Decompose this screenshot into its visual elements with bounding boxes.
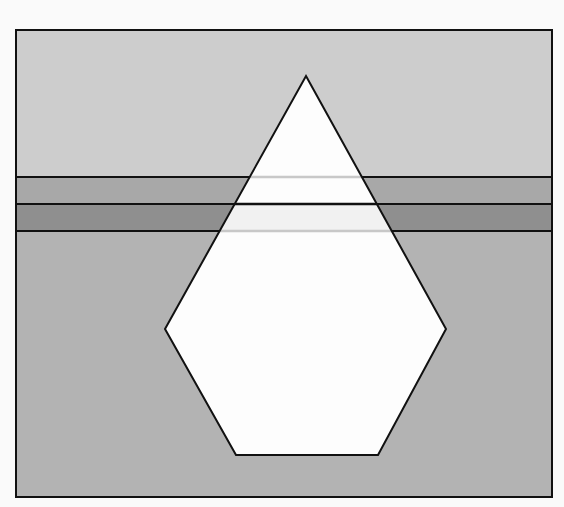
diagram-canvas — [0, 0, 564, 507]
